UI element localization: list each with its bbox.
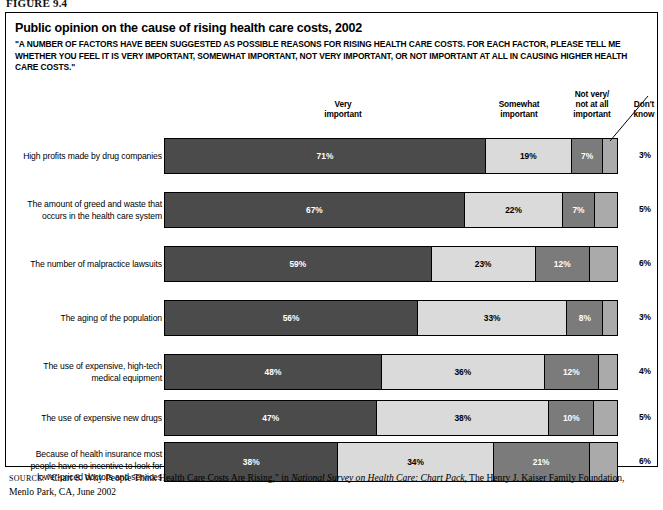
bar-segment [603,301,617,335]
dont-know-value: 5% [626,412,663,422]
bar-segment: 10% [549,401,594,435]
segment-value-label: 33% [484,313,501,323]
row-label: The number of malpractice lawsuits [12,259,162,271]
dont-know-value: 4% [626,366,663,376]
chart-frame: Public opinion on the cause of rising he… [5,12,658,467]
segment-value-label: 12% [554,259,571,269]
bar-segment: 67% [165,193,465,227]
row-label-line: occurs in the health care system [12,211,162,223]
source-prefix: SOURCE: [9,474,45,483]
segment-value-label: 10% [563,413,580,423]
bar-segment: 38% [377,401,549,435]
column-header-somewhat-important: Somewhatimportant [476,99,562,119]
dont-know-value: 6% [626,456,663,466]
bar-segment: 36% [382,355,545,389]
row-label: The use of expensive, high-techmedical e… [12,361,162,384]
row-label-line: medical equipment [12,373,162,385]
segment-value-label: 36% [454,367,471,377]
segment-value-label: 34% [407,457,424,467]
segment-value-label: 21% [533,457,550,467]
segment-value-label: 38% [454,413,471,423]
source-publication: National Survey on Health Care: Chart Pa… [291,472,464,483]
segment-value-label: 7% [581,151,593,161]
column-header-not-very-important: Not very/not at allimportant [559,89,625,119]
bar-segment [594,401,617,435]
segment-value-label: 47% [262,413,279,423]
row-label-line: people have no incentive to look for [12,461,162,473]
bar-segment: 22% [465,193,563,227]
dont-know-value: 6% [626,258,663,268]
segment-value-label: 38% [243,457,260,467]
dont-know-value: 3% [626,150,663,160]
bar-segment: 48% [165,355,382,389]
dont-know-value: 3% [626,312,663,322]
bar-segment: 71% [165,139,486,173]
segment-value-label: 48% [265,367,282,377]
segment-value-label: 56% [283,313,300,323]
stacked-bar: 71%19%7% [164,138,618,174]
segment-value-label: 59% [289,259,306,269]
segment-value-label: 8% [579,313,591,323]
bar-segment: 33% [418,301,567,335]
stacked-bar: 48%36%12% [164,354,618,390]
bar-segment: 47% [165,401,377,435]
row-label-line: High profits made by drug companies [12,151,162,163]
segment-value-label: 22% [505,205,522,215]
bar-segment: 23% [432,247,536,281]
figure-label: FIGURE 9.4 [6,0,67,9]
bar-segment [603,139,617,173]
row-label-line: The use of expensive, high-tech [12,361,162,373]
dont-know-value: 5% [626,204,663,214]
row-label: The amount of greed and waste thatoccurs… [12,199,162,222]
source-note: SOURCE: "Chart 8. Why People Think Healt… [9,472,649,498]
column-header-dont-know: Don'tknow [622,99,663,119]
row-label: High profits made by drug companies [12,151,162,163]
bar-segment: 12% [545,355,599,389]
chart-title: Public opinion on the cause of rising he… [15,21,362,35]
stacked-bar: 59%23%12% [164,246,618,282]
segment-value-label: 19% [520,151,537,161]
row-label: The use of expensive new drugs [12,413,162,425]
source-text-1: "Chart 8. Why People Think Health Care C… [45,472,291,483]
bar-segment: 56% [165,301,418,335]
bar-segment [590,247,617,281]
stacked-bar: 47%38%10% [164,400,618,436]
bar-segment [595,193,617,227]
segment-value-label: 12% [563,367,580,377]
row-label-line: The aging of the population [12,313,162,325]
row-label: The aging of the population [12,313,162,325]
row-label-line: Because of health insurance most [12,449,162,461]
bar-segment: 8% [567,301,603,335]
bar-segment: 12% [536,247,590,281]
stacked-bar: 56%33%8% [164,300,618,336]
segment-value-label: 23% [475,259,492,269]
segment-value-label: 7% [572,205,584,215]
bar-segment: 7% [563,193,594,227]
column-header-very-important: Veryimportant [298,99,388,119]
stacked-bar: 67%22%7% [164,192,618,228]
bar-segment: 59% [165,247,432,281]
chart-subtitle: "A NUMBER OF FACTORS HAVE BEEN SUGGESTED… [15,39,651,74]
bar-segment [599,355,617,389]
segment-value-label: 71% [317,151,334,161]
bar-segment: 7% [572,139,604,173]
row-label-line: The number of malpractice lawsuits [12,259,162,271]
row-label-line: The amount of greed and waste that [12,199,162,211]
row-label-line: The use of expensive new drugs [12,413,162,425]
segment-value-label: 67% [306,205,323,215]
bar-segment: 19% [486,139,572,173]
